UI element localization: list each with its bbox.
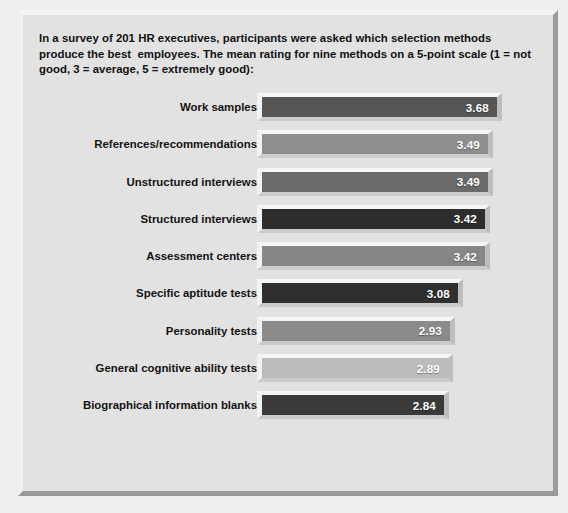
- chart-row: Structured interviews3.42: [23, 205, 553, 242]
- bar: 3.68: [257, 93, 502, 121]
- bar-value-label: 2.89: [417, 358, 440, 378]
- chart-row: Assessment centers3.42: [23, 242, 553, 279]
- bar-body: 2.89: [257, 354, 453, 382]
- bar-value-label: 3.42: [454, 246, 477, 266]
- chart-row: Specific aptitude tests3.08: [23, 279, 553, 316]
- chart-row: References/recommendations3.49: [23, 130, 553, 167]
- intro-text: In a survey of 201 HR executives, partic…: [39, 31, 531, 78]
- bar-category-label: General cognitive ability tests: [96, 354, 257, 382]
- bar: 3.49: [257, 168, 493, 196]
- bar-body: 3.42: [257, 242, 490, 270]
- bar-category-label: Specific aptitude tests: [136, 279, 257, 307]
- bar: 2.84: [257, 391, 449, 419]
- chart-row: Unstructured interviews3.49: [23, 168, 553, 205]
- bar-value-label: 3.49: [457, 134, 480, 154]
- bar-face: [262, 97, 497, 117]
- bar-body: 3.49: [257, 130, 493, 158]
- bar-chart: Work samples3.68References/recommendatio…: [23, 93, 553, 429]
- bar-face: [262, 246, 485, 266]
- bar-category-label: Structured interviews: [141, 205, 257, 233]
- bar: 3.49: [257, 130, 493, 158]
- bar: 3.42: [257, 205, 490, 233]
- bar-value-label: 3.42: [454, 209, 477, 229]
- chart-row: Biographical information blanks2.84: [23, 391, 553, 428]
- bar-value-label: 3.68: [466, 97, 489, 117]
- bar-category-label: Personality tests: [166, 317, 257, 345]
- bar-category-label: Unstructured interviews: [127, 168, 257, 196]
- bar-body: 3.68: [257, 93, 502, 121]
- bar-value-label: 2.93: [419, 321, 442, 341]
- bar-value-label: 3.08: [427, 283, 450, 303]
- bar-category-label: Assessment centers: [146, 242, 257, 270]
- bar: 3.42: [257, 242, 490, 270]
- bar-value-label: 2.84: [413, 395, 436, 415]
- bar-category-label: Biographical information blanks: [83, 391, 257, 419]
- chart-row: Work samples3.68: [23, 93, 553, 130]
- bar-body: 3.42: [257, 205, 490, 233]
- chart-frame: In a survey of 201 HR executives, partic…: [18, 10, 558, 496]
- bar-body: 3.49: [257, 168, 493, 196]
- bar-face: [262, 172, 488, 192]
- bar: 3.08: [257, 279, 463, 307]
- bar-category-label: References/recommendations: [94, 130, 257, 158]
- bar-category-label: Work samples: [180, 93, 257, 121]
- chart-page: In a survey of 201 HR executives, partic…: [0, 0, 568, 513]
- bar-body: 2.93: [257, 317, 455, 345]
- chart-row: Personality tests2.93: [23, 317, 553, 354]
- bar-face: [262, 209, 485, 229]
- bar-body: 3.08: [257, 279, 463, 307]
- bar-body: 2.84: [257, 391, 449, 419]
- chart-plate: In a survey of 201 HR executives, partic…: [23, 15, 553, 491]
- bar-face: [262, 134, 488, 154]
- bar: 2.93: [257, 317, 455, 345]
- bar-value-label: 3.49: [457, 172, 480, 192]
- chart-row: General cognitive ability tests2.89: [23, 354, 553, 391]
- bar: 2.89: [257, 354, 453, 382]
